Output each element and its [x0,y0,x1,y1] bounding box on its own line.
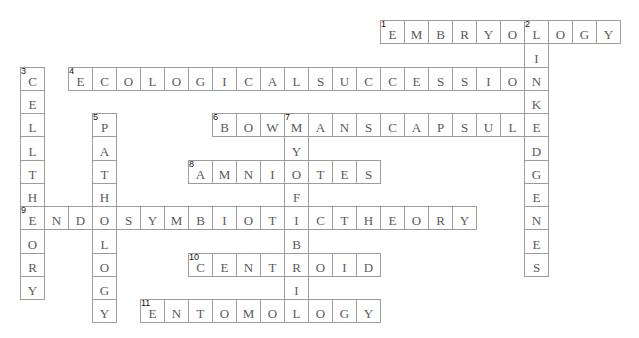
crossword-cell[interactable]: D [68,206,93,230]
crossword-cell[interactable]: E [332,160,357,184]
crossword-cell[interactable]: O [92,253,117,277]
crossword-cell[interactable]: C [380,67,405,91]
crossword-cell[interactable]: S [116,206,141,230]
crossword-cell[interactable]: A [92,136,117,160]
crossword-cell[interactable]: L [20,136,45,160]
crossword-cell[interactable]: L [140,67,165,91]
crossword-cell[interactable]: M [164,206,189,230]
crossword-cell[interactable]: O [284,160,309,184]
crossword-cell[interactable]: H [20,183,45,207]
crossword-cell[interactable]: L [284,299,309,323]
crossword-cell[interactable]: C3 [20,67,45,91]
crossword-cell[interactable]: G [92,276,117,300]
crossword-cell[interactable]: C [308,206,333,230]
crossword-cell[interactable]: Y [356,299,381,323]
crossword-cell[interactable]: C [380,113,405,137]
crossword-cell[interactable]: C [356,67,381,91]
crossword-cell[interactable]: G [572,20,597,44]
crossword-cell[interactable]: N [44,206,69,230]
crossword-cell[interactable]: M7 [284,113,309,137]
crossword-cell[interactable]: S [356,160,381,184]
crossword-cell[interactable]: A8 [188,160,213,184]
crossword-cell[interactable]: I [524,43,549,67]
crossword-cell[interactable]: O [236,113,261,137]
crossword-cell[interactable]: S [452,113,477,137]
crossword-cell[interactable]: E1 [380,20,405,44]
crossword-cell[interactable]: G [332,299,357,323]
crossword-cell[interactable]: I [284,276,309,300]
crossword-cell[interactable]: L2 [524,20,549,44]
crossword-cell[interactable]: Y [20,276,45,300]
crossword-cell[interactable]: O [260,299,285,323]
crossword-cell[interactable]: M [236,299,261,323]
crossword-cell[interactable]: Y [452,206,477,230]
crossword-cell[interactable]: G [524,160,549,184]
crossword-cell[interactable]: E11 [140,299,165,323]
crossword-cell[interactable]: I [284,206,309,230]
crossword-cell[interactable]: E [524,229,549,253]
crossword-cell[interactable]: P [428,113,453,137]
crossword-cell[interactable]: O [308,253,333,277]
crossword-cell[interactable]: D [356,253,381,277]
crossword-cell[interactable]: B6 [212,113,237,137]
crossword-cell[interactable]: E [404,67,429,91]
crossword-cell[interactable]: R [428,206,453,230]
crossword-cell[interactable]: I [332,253,357,277]
crossword-cell[interactable]: A [260,67,285,91]
crossword-cell[interactable]: A [308,113,333,137]
crossword-cell[interactable]: I [212,67,237,91]
crossword-cell[interactable]: T [308,160,333,184]
crossword-cell[interactable]: Y [476,20,501,44]
crossword-cell[interactable]: W [260,113,285,137]
crossword-cell[interactable]: L [20,113,45,137]
crossword-cell[interactable]: Y [284,136,309,160]
crossword-cell[interactable]: O [92,206,117,230]
crossword-cell[interactable]: E [524,113,549,137]
crossword-cell[interactable]: B [428,20,453,44]
crossword-cell[interactable]: P5 [92,113,117,137]
crossword-cell[interactable]: N [164,299,189,323]
crossword-cell[interactable]: T [332,206,357,230]
crossword-cell[interactable]: O [20,229,45,253]
crossword-cell[interactable]: O [548,20,573,44]
crossword-cell[interactable]: O [500,20,525,44]
crossword-cell[interactable]: O [308,299,333,323]
crossword-cell[interactable]: S [428,67,453,91]
crossword-cell[interactable]: H [356,206,381,230]
crossword-cell[interactable]: I [260,160,285,184]
crossword-cell[interactable]: S [356,113,381,137]
crossword-cell[interactable]: O [212,299,237,323]
crossword-cell[interactable]: T [92,160,117,184]
crossword-cell[interactable]: S [524,253,549,277]
crossword-cell[interactable]: E [212,253,237,277]
crossword-cell[interactable]: E [20,90,45,114]
crossword-cell[interactable]: C10 [188,253,213,277]
crossword-cell[interactable]: I [476,67,501,91]
crossword-cell[interactable]: O [500,67,525,91]
crossword-cell[interactable]: N [524,67,549,91]
crossword-cell[interactable]: E [524,183,549,207]
crossword-cell[interactable]: N [236,253,261,277]
crossword-cell[interactable]: C [236,67,261,91]
crossword-cell[interactable]: T [188,299,213,323]
crossword-cell[interactable]: N [332,113,357,137]
crossword-cell[interactable]: N [524,206,549,230]
crossword-cell[interactable]: M [404,20,429,44]
crossword-cell[interactable]: O [116,67,141,91]
crossword-cell[interactable]: M [212,160,237,184]
crossword-cell[interactable]: Y [92,299,117,323]
crossword-cell[interactable]: R [452,20,477,44]
crossword-cell[interactable]: F [284,183,309,207]
crossword-cell[interactable]: E4 [68,67,93,91]
crossword-cell[interactable]: U [476,113,501,137]
crossword-cell[interactable]: L [92,229,117,253]
crossword-cell[interactable]: S [308,67,333,91]
crossword-cell[interactable]: R [284,253,309,277]
crossword-cell[interactable]: S [452,67,477,91]
crossword-cell[interactable]: L [500,113,525,137]
crossword-cell[interactable]: K [524,90,549,114]
crossword-cell[interactable]: G [188,67,213,91]
crossword-cell[interactable]: T [260,206,285,230]
crossword-cell[interactable]: N [236,160,261,184]
crossword-cell[interactable]: B [188,206,213,230]
